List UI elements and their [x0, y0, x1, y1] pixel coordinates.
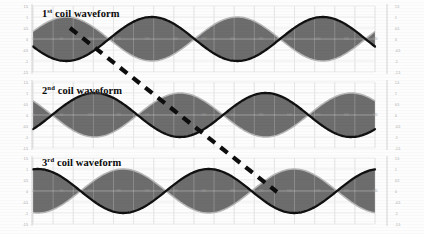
- y-axis-tick-label: -0.5: [23, 49, 29, 53]
- x-axis-tick-label: 240: [144, 189, 149, 193]
- y-axis-tick-label-right: 1.5: [395, 81, 400, 85]
- y-axis-tick-label: 0: [26, 38, 28, 42]
- x-axis-tick-label: 60: [60, 37, 64, 41]
- x-axis-tick-label: 600: [315, 37, 320, 41]
- y-axis-tick-label: 1: [26, 92, 28, 96]
- panel-2-label: 2nd coil waveform: [42, 85, 122, 96]
- x-axis-tick-label: 660: [344, 37, 349, 41]
- y-axis-tick-label-right: 0.5: [395, 179, 400, 183]
- x-axis-tick-label: 120: [87, 113, 92, 117]
- x-axis-tick-label: 360: [201, 37, 206, 41]
- panel-1-label: 1st coil waveform: [42, 8, 120, 19]
- y-axis-tick-label-right: 1: [395, 92, 397, 96]
- x-axis-tick-label: 540: [287, 113, 292, 117]
- y-axis-tick-label-right: -0.5: [395, 201, 401, 205]
- y-axis-tick-label-right: -0.5: [395, 49, 401, 53]
- x-axis-tick-label: 600: [315, 189, 320, 193]
- y-axis-tick-label: -1.5: [23, 71, 29, 75]
- y-axis-tick-label-right: 1: [395, 168, 397, 172]
- x-axis-tick-label: 360: [201, 113, 206, 117]
- x-axis-tick-label: 660: [344, 189, 349, 193]
- coil-waveform-figure: 1st coil waveform 2nd coil waveform 3rd …: [0, 0, 424, 234]
- y-axis-tick-label-right: -1.5: [395, 71, 401, 75]
- y-axis-tick-label: 1.5: [24, 81, 29, 85]
- y-axis-tick-label: -1: [25, 60, 28, 64]
- x-axis-tick-label: 300: [173, 113, 178, 117]
- panel-2-label-text: coil waveform: [58, 85, 123, 96]
- y-axis-tick-label: 1.5: [24, 157, 29, 161]
- x-axis-tick-label: 300: [173, 37, 178, 41]
- y-axis-tick-label: -0.5: [23, 201, 29, 205]
- x-axis-tick-label: 540: [287, 189, 292, 193]
- y-axis-tick-label: -1.5: [23, 147, 29, 151]
- x-axis-tick-label: 120: [87, 37, 92, 41]
- x-axis-tick-label: 180: [116, 189, 121, 193]
- y-axis-tick-label-right: -1: [395, 60, 398, 64]
- y-axis-tick-label-right: 1.5: [395, 157, 400, 161]
- x-axis-tick-label: 120: [87, 189, 92, 193]
- panel-3-label-text: coil waveform: [57, 157, 122, 168]
- x-axis-tick-label: 420: [230, 113, 235, 117]
- x-axis-tick-label: 60: [60, 113, 64, 117]
- y-axis-tick-label: 1: [26, 16, 28, 20]
- x-axis-tick-label: 480: [258, 113, 263, 117]
- y-axis-tick-label-right: 0.5: [395, 103, 400, 107]
- panel-2-superscript: nd: [47, 84, 55, 91]
- x-axis-tick-label: 720: [372, 189, 377, 193]
- x-axis-tick-label: 420: [230, 189, 235, 193]
- x-axis-tick-label: 420: [230, 37, 235, 41]
- y-axis-tick-label: 1: [26, 168, 28, 172]
- y-axis-tick-label-right: 1.5: [395, 5, 400, 9]
- x-axis-tick-label: 240: [144, 37, 149, 41]
- x-axis-tick-label: 540: [287, 37, 292, 41]
- y-axis-tick-label-right: -0.5: [395, 125, 401, 129]
- waveform-plot-layer: 1.51.5110.50.500-0.5-0.5-1-1-1.5-1.50601…: [0, 0, 424, 234]
- x-axis-tick-label: 180: [116, 37, 121, 41]
- y-axis-tick-label-right: -1: [395, 212, 398, 216]
- y-axis-tick-label-right: 0.5: [395, 27, 400, 31]
- y-axis-tick-label: 0: [26, 114, 28, 118]
- x-axis-tick-label: 240: [144, 113, 149, 117]
- y-axis-tick-label-right: -1.5: [395, 147, 401, 151]
- panel-3-superscript: rd: [47, 156, 54, 163]
- x-axis-tick-label: 480: [258, 37, 263, 41]
- y-axis-tick-label-right: 0: [395, 190, 397, 194]
- y-axis-tick-label: 1.5: [24, 5, 29, 9]
- x-axis-tick-label: 360: [201, 189, 206, 193]
- y-axis-tick-label: -1: [25, 136, 28, 140]
- panel-1-superscript: st: [47, 7, 52, 14]
- y-axis-tick-label: -1: [25, 212, 28, 216]
- y-axis-tick-label: 0: [26, 190, 28, 194]
- x-axis-tick-label: 600: [315, 113, 320, 117]
- x-axis-tick-label: 720: [372, 37, 377, 41]
- x-axis-tick-label: 660: [344, 113, 349, 117]
- x-axis-tick-label: 720: [372, 113, 377, 117]
- x-axis-tick-label: 60: [60, 189, 64, 193]
- y-axis-tick-label-right: 0: [395, 38, 397, 42]
- panel-1-label-text: coil waveform: [55, 8, 120, 19]
- x-axis-tick-label: 480: [258, 189, 263, 193]
- y-axis-tick-label-right: -1: [395, 136, 398, 140]
- y-axis-tick-label: -1.5: [23, 223, 29, 227]
- panel-3-label: 3rd coil waveform: [42, 157, 121, 168]
- y-axis-tick-label: 0.5: [24, 103, 29, 107]
- y-axis-tick-label: 0.5: [24, 27, 29, 31]
- y-axis-tick-label-right: 0: [395, 114, 397, 118]
- y-axis-tick-label-right: 1: [395, 16, 397, 20]
- x-axis-tick-label: 180: [116, 113, 121, 117]
- y-axis-tick-label: 0.5: [24, 179, 29, 183]
- y-axis-tick-label: -0.5: [23, 125, 29, 129]
- y-axis-tick-label-right: -1.5: [395, 223, 401, 227]
- x-axis-tick-label: 300: [173, 189, 178, 193]
